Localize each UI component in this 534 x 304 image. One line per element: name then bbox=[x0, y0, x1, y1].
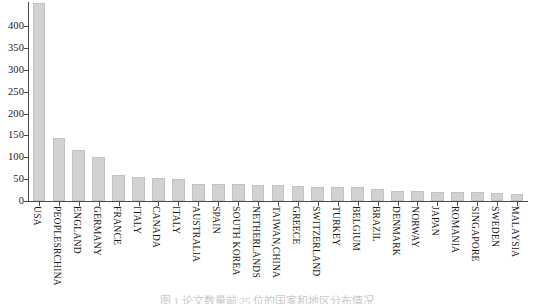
x-axis-tick-label: ITALY bbox=[132, 206, 143, 234]
y-axis-tick bbox=[24, 135, 29, 136]
figure-caption: 图 1 论文数量前 25 位的国家和地区分布情况 bbox=[0, 292, 534, 304]
y-axis-tick bbox=[24, 179, 29, 180]
y-axis-tick-label: 250 bbox=[0, 87, 24, 98]
bar bbox=[471, 192, 484, 201]
x-axis-tick-label: ENGLAND bbox=[72, 206, 83, 254]
y-axis-tick-label: 350 bbox=[0, 43, 24, 54]
bar bbox=[252, 185, 265, 201]
bar bbox=[411, 191, 424, 201]
bar bbox=[511, 194, 524, 201]
x-axis-tick-label: ITALY bbox=[171, 206, 182, 234]
bar bbox=[192, 184, 205, 202]
y-axis-tick-label: 100 bbox=[0, 152, 24, 163]
x-axis-tick-label: NETHERLANDS bbox=[251, 206, 262, 278]
bar bbox=[292, 186, 305, 201]
x-axis-tick-label: USA bbox=[32, 206, 43, 226]
bar bbox=[351, 187, 364, 201]
bar bbox=[232, 184, 245, 201]
y-axis-tick-label: 150 bbox=[0, 130, 24, 141]
y-axis-tick-label: 50 bbox=[0, 174, 24, 185]
y-axis-tick bbox=[24, 114, 29, 115]
x-axis-tick-label: SOUTH KOREA bbox=[231, 206, 242, 276]
bar bbox=[451, 192, 464, 201]
bar-series bbox=[29, 2, 527, 201]
x-axis-tick-label: JAPAN bbox=[430, 206, 441, 236]
x-axis-tick-label: BRAZIL bbox=[371, 206, 382, 242]
y-axis-tick-label: 300 bbox=[0, 65, 24, 76]
x-axis-tick-label: NORWAY bbox=[410, 206, 421, 248]
bar bbox=[431, 192, 444, 201]
x-axis-tick-label: AUSTRALIA bbox=[191, 206, 202, 262]
bar bbox=[152, 178, 165, 201]
bar bbox=[132, 177, 145, 202]
y-axis-tick bbox=[24, 201, 29, 202]
bar bbox=[212, 184, 225, 202]
bar bbox=[53, 138, 66, 201]
bar bbox=[391, 191, 404, 201]
x-axis-tick-label: CANADA bbox=[151, 206, 162, 248]
x-axis-tick-label: DENMARK bbox=[391, 206, 402, 256]
x-axis-tick-label: GREECE bbox=[291, 206, 302, 245]
bar bbox=[172, 179, 185, 201]
bar bbox=[491, 193, 504, 201]
x-axis-tick-label: GERMANY bbox=[92, 206, 103, 256]
chart-figure: 050100150200250300350400 USAPEOPLESRCHIN… bbox=[0, 0, 534, 304]
bar bbox=[33, 3, 46, 201]
y-axis-tick bbox=[24, 92, 29, 93]
bar bbox=[92, 157, 105, 201]
y-axis-tick bbox=[24, 157, 29, 158]
y-axis-labels: 050100150200250300350400 bbox=[0, 0, 24, 204]
x-axis-tick-label: SWEDEN bbox=[490, 206, 501, 247]
x-axis-tick-label: SWITZERLAND bbox=[311, 206, 322, 276]
x-axis-tick-label: BELGIUM bbox=[351, 206, 362, 251]
x-axis-tick-label: FRANCE bbox=[112, 206, 123, 245]
y-axis-tick bbox=[24, 26, 29, 27]
x-axis-tick-label: PEOPLESRCHINA bbox=[52, 206, 63, 286]
x-axis-tick-label: TAIWAN,CHINA bbox=[271, 206, 282, 278]
x-axis-tick-label: SINGAPORE bbox=[470, 206, 481, 262]
bar bbox=[311, 187, 324, 201]
bar bbox=[371, 189, 384, 201]
y-axis-tick bbox=[24, 70, 29, 71]
y-axis-tick bbox=[24, 48, 29, 49]
y-axis-tick-label: 0 bbox=[0, 196, 24, 207]
bar bbox=[331, 187, 344, 201]
bar bbox=[112, 175, 125, 201]
bar bbox=[72, 150, 85, 201]
x-axis-tick-label: MALAYSIA bbox=[510, 206, 521, 257]
x-axis-labels: USAPEOPLESRCHINAENGLANDGERMANYFRANCEITAL… bbox=[29, 206, 527, 286]
x-axis-tick-label: ROMANIA bbox=[450, 206, 461, 253]
x-axis-tick-label: TURKEY bbox=[331, 206, 342, 246]
bar bbox=[272, 185, 285, 201]
y-axis-tick-label: 200 bbox=[0, 109, 24, 120]
x-axis-tick-label: SPAIN bbox=[211, 206, 222, 234]
y-axis-tick-label: 400 bbox=[0, 21, 24, 32]
